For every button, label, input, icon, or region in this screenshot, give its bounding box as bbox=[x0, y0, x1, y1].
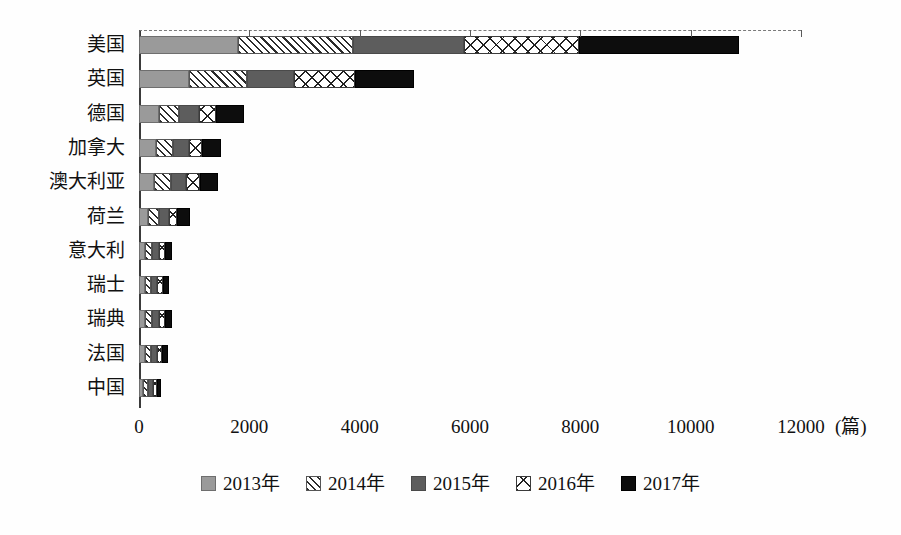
category-label-11: 中国 bbox=[87, 378, 125, 397]
legend-item-2017[interactable]: 2017年 bbox=[621, 474, 700, 493]
bar-segment-2014[interactable] bbox=[159, 105, 179, 123]
legend-label: 2014年 bbox=[328, 474, 385, 493]
bar-segment-2014[interactable] bbox=[145, 310, 152, 328]
legend-swatch-icon bbox=[306, 476, 321, 491]
x-axis-tick bbox=[691, 30, 692, 37]
bar-segment-2014[interactable] bbox=[145, 242, 152, 260]
bar-segment-2015[interactable] bbox=[173, 139, 189, 157]
bar-segment-2014[interactable] bbox=[154, 173, 171, 191]
bar-chart: 美国英国德国加拿大澳大利亚荷兰意大利瑞士瑞典法国中国 0200040006000… bbox=[0, 0, 901, 535]
x-tick-label-10000: 10000 bbox=[667, 416, 715, 438]
bar-segment-2013[interactable] bbox=[139, 208, 148, 226]
legend-swatch-icon bbox=[621, 476, 636, 491]
bar-segment-2014[interactable] bbox=[238, 36, 353, 54]
bar-segment-2014[interactable] bbox=[189, 70, 247, 88]
legend-item-2015[interactable]: 2015年 bbox=[411, 474, 490, 493]
x-tick-label-12000: 12000 bbox=[777, 416, 825, 438]
x-tick-label-8000: 8000 bbox=[561, 416, 599, 438]
x-axis-unit-label: (篇) bbox=[835, 416, 867, 438]
x-axis-tick-labels: 020004000600080001000012000(篇) bbox=[0, 416, 901, 446]
bar-segment-2017[interactable] bbox=[216, 105, 244, 123]
bar-segment-2016[interactable] bbox=[189, 139, 202, 157]
category-label-4: 加拿大 bbox=[68, 138, 125, 157]
category-label-1: 美国 bbox=[87, 35, 125, 54]
x-tick-label-4000: 4000 bbox=[341, 416, 379, 438]
category-label-2: 英国 bbox=[87, 69, 125, 88]
bar-segment-2017[interactable] bbox=[165, 310, 172, 328]
category-label-7: 意大利 bbox=[68, 241, 125, 260]
bar-segment-2015[interactable] bbox=[247, 70, 294, 88]
plot-area bbox=[139, 30, 801, 408]
bar-segment-2014[interactable] bbox=[145, 345, 152, 363]
bar-segment-2016[interactable] bbox=[169, 208, 177, 226]
x-tick-label-6000: 6000 bbox=[451, 416, 489, 438]
x-tick-label-0: 0 bbox=[134, 416, 144, 438]
bar-segment-2013[interactable] bbox=[139, 139, 156, 157]
legend-swatch-icon bbox=[201, 476, 216, 491]
bar-segment-2017[interactable] bbox=[157, 379, 160, 397]
chart-legend: 2013年2014年2015年2016年2017年 bbox=[0, 466, 901, 500]
bar-segment-2017[interactable] bbox=[579, 36, 739, 54]
bar-segment-2015[interactable] bbox=[152, 242, 159, 260]
bar-segment-2013[interactable] bbox=[139, 70, 189, 88]
legend-swatch-icon bbox=[411, 476, 426, 491]
x-axis-tick bbox=[580, 30, 581, 37]
bar-segment-2015[interactable] bbox=[152, 310, 159, 328]
legend-label: 2015年 bbox=[433, 474, 490, 493]
legend-label: 2017年 bbox=[643, 474, 700, 493]
bar-segment-2017[interactable] bbox=[165, 242, 172, 260]
legend-label: 2013年 bbox=[223, 474, 280, 493]
x-axis-tick bbox=[470, 30, 471, 37]
category-label-8: 瑞士 bbox=[87, 275, 125, 294]
bar-segment-2016[interactable] bbox=[294, 70, 355, 88]
bar-segment-2017[interactable] bbox=[200, 173, 219, 191]
bar-segment-2013[interactable] bbox=[139, 173, 154, 191]
bar-segment-2014[interactable] bbox=[148, 208, 158, 226]
category-label-10: 法国 bbox=[87, 344, 125, 363]
bar-segment-2016[interactable] bbox=[464, 36, 579, 54]
bar-segment-2016[interactable] bbox=[186, 173, 199, 191]
x-axis-tick bbox=[139, 30, 140, 37]
bar-segment-2017[interactable] bbox=[162, 345, 168, 363]
bar-segment-2017[interactable] bbox=[202, 139, 221, 157]
bar-segment-2015[interactable] bbox=[353, 36, 464, 54]
x-axis-tick bbox=[360, 30, 361, 37]
category-axis-labels: 美国英国德国加拿大澳大利亚荷兰意大利瑞士瑞典法国中国 bbox=[0, 30, 133, 408]
bar-segment-2017[interactable] bbox=[163, 276, 169, 294]
x-axis-tick bbox=[249, 30, 250, 37]
x-tick-label-2000: 2000 bbox=[230, 416, 268, 438]
bar-segment-2013[interactable] bbox=[139, 105, 159, 123]
legend-item-2013[interactable]: 2013年 bbox=[201, 474, 280, 493]
category-label-3: 德国 bbox=[87, 104, 125, 123]
legend-item-2014[interactable]: 2014年 bbox=[306, 474, 385, 493]
bar-segment-2017[interactable] bbox=[355, 70, 414, 88]
category-label-5: 澳大利亚 bbox=[49, 172, 125, 191]
bar-segment-2015[interactable] bbox=[171, 173, 186, 191]
bar-segment-2015[interactable] bbox=[179, 105, 198, 123]
legend-swatch-icon bbox=[516, 476, 531, 491]
bar-segment-2017[interactable] bbox=[177, 208, 190, 226]
legend-item-2016[interactable]: 2016年 bbox=[516, 474, 595, 493]
x-axis-tick bbox=[801, 30, 802, 37]
legend-label: 2016年 bbox=[538, 474, 595, 493]
category-label-6: 荷兰 bbox=[87, 207, 125, 226]
bar-segment-2013[interactable] bbox=[139, 36, 238, 54]
category-label-9: 瑞典 bbox=[87, 309, 125, 328]
bar-segment-2014[interactable] bbox=[145, 276, 152, 294]
bar-segment-2015[interactable] bbox=[159, 208, 169, 226]
bar-segment-2016[interactable] bbox=[199, 105, 216, 123]
bar-segment-2014[interactable] bbox=[156, 139, 174, 157]
